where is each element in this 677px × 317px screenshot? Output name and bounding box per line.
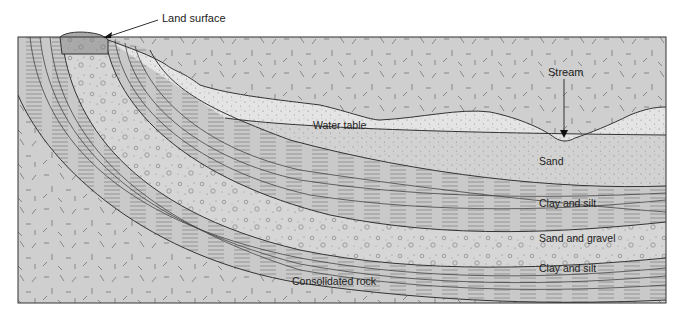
label-clay-silt-lower: Clay and silt [539,263,596,274]
label-sand-gravel: Sand and gravel [539,233,615,244]
label-water-table: Water table [313,120,366,131]
label-land-surface: Land surface [162,13,226,24]
label-sand: Sand [539,156,564,167]
label-consolidated-rock: Consolidated rock [292,276,376,287]
label-stream: Stream [548,67,583,78]
label-clay-silt-upper: Clay and silt [539,198,596,209]
